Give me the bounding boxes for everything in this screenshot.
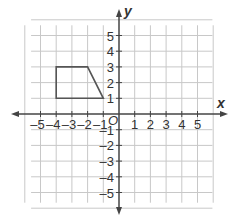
labels: –5–4–3–2–112345–5–4–3–2–112345xyO (30, 3, 226, 201)
x-axis-arrow-left (11, 111, 19, 117)
y-tick-label: –5 (100, 186, 114, 201)
y-tick-label: –2 (100, 138, 114, 153)
y-axis-arrow-down (116, 207, 122, 215)
x-tick-label: 4 (178, 117, 185, 132)
y-tick-label: –3 (100, 154, 114, 169)
y-tick-label: –4 (100, 170, 114, 185)
axes (11, 9, 228, 215)
x-tick-label: –5 (30, 117, 44, 132)
x-tick-label: 1 (131, 117, 138, 132)
coordinate-plane: –5–4–3–2–112345–5–4–3–2–112345xyO (0, 0, 237, 224)
x-tick-label: 2 (147, 117, 154, 132)
x-tick-label: 5 (194, 117, 201, 132)
y-tick-label: 1 (107, 91, 114, 106)
y-tick-label: 2 (107, 76, 114, 91)
x-axis-label: x (216, 95, 226, 111)
x-axis-arrow-right (220, 111, 228, 117)
x-tick-label: –4 (46, 117, 60, 132)
x-tick-label: –2 (77, 117, 91, 132)
y-tick-label: 4 (107, 44, 114, 59)
y-axis-label: y (123, 3, 133, 19)
x-tick-label: 3 (162, 117, 169, 132)
y-axis-arrow-up (116, 9, 122, 17)
origin-label: O (108, 113, 118, 128)
y-tick-label: 5 (107, 29, 114, 44)
y-tick-label: 3 (107, 60, 114, 75)
x-tick-label: –3 (62, 117, 76, 132)
